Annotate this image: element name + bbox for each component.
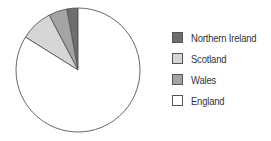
legend-label-northern-ireland: Northern Ireland — [191, 32, 256, 44]
legend: Northern Ireland Scotland Wales England — [172, 27, 264, 111]
legend-item-scotland: Scotland — [172, 48, 264, 69]
legend-item-wales: Wales — [172, 69, 264, 90]
legend-label-wales: Wales — [191, 74, 216, 86]
legend-item-england: England — [172, 90, 264, 111]
legend-item-northern-ireland: Northern Ireland — [172, 27, 264, 48]
legend-swatch-northern-ireland — [172, 32, 183, 43]
legend-swatch-wales — [172, 74, 183, 85]
legend-label-scotland: Scotland — [191, 53, 226, 65]
legend-swatch-scotland — [172, 53, 183, 64]
legend-swatch-england — [172, 95, 183, 106]
pie-chart — [0, 0, 160, 141]
legend-label-england: England — [191, 95, 224, 107]
